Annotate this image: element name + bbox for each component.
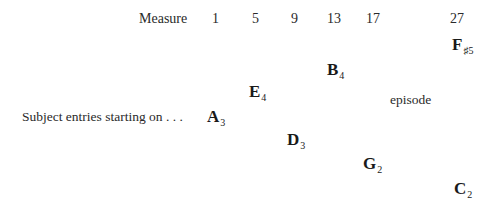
measure-number: 9	[291, 12, 298, 26]
measure-number: 5	[252, 12, 259, 26]
measure-number: 1	[212, 12, 219, 26]
measure-number: 27	[450, 12, 464, 26]
entry-d3: D3	[287, 131, 305, 148]
entry-g2: G2	[363, 155, 382, 172]
row-label: Subject entries starting on . . .	[22, 110, 183, 124]
entry-a3: A3	[207, 108, 225, 125]
entry-fsharp5: F♯5	[452, 36, 473, 53]
entry-c2: C2	[454, 180, 472, 197]
measure-number: 17	[366, 12, 380, 26]
measure-label: Measure	[139, 12, 187, 26]
measure-number: 13	[327, 12, 341, 26]
entry-e4: E4	[249, 83, 266, 100]
entry-b4: B4	[327, 61, 344, 78]
episode-label: episode	[390, 93, 431, 107]
